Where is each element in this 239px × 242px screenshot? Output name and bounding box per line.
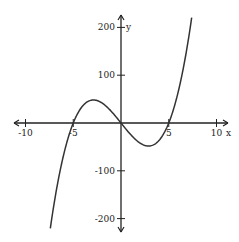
y-tick-label: 200 — [98, 22, 115, 32]
y-axis-label: y — [125, 22, 132, 32]
x-tick-label: -10 — [18, 128, 33, 138]
x-tick-label: 10 — [211, 128, 223, 138]
x-axis-label: x — [226, 128, 231, 138]
y-tick-label: -200 — [95, 214, 115, 224]
y-tick-label: -100 — [95, 166, 115, 176]
x-tick-label: 5 — [166, 128, 172, 138]
y-tick-label: 100 — [98, 70, 115, 80]
cubic-function-graph: -10-5510x200100-100-200y — [0, 0, 239, 242]
